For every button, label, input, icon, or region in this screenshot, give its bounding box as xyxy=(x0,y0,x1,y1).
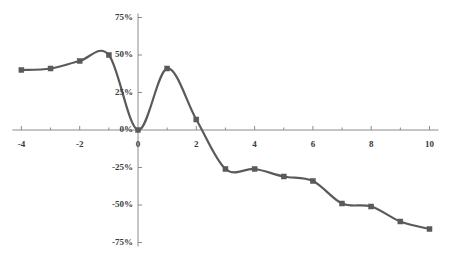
x-axis-tick-label: 0 xyxy=(118,140,158,149)
x-axis-tick-label: -4 xyxy=(1,140,41,149)
data-point-marker xyxy=(369,204,374,209)
data-point-marker xyxy=(19,68,24,73)
data-point-marker xyxy=(310,179,315,184)
y-axis-tick-label: 75% xyxy=(115,13,133,22)
data-point-marker xyxy=(165,66,170,71)
data-point-marker xyxy=(106,53,111,58)
data-point-marker xyxy=(398,219,403,224)
data-point-marker xyxy=(427,227,432,232)
data-point-marker xyxy=(136,128,141,133)
line-chart: 75%50%25%0%-25%-50%-75% -4-20246810 xyxy=(0,0,455,262)
y-axis-tick-label: -75% xyxy=(112,238,133,247)
data-point-marker xyxy=(281,174,286,179)
x-axis-tick-label: 8 xyxy=(351,140,391,149)
x-axis-tick-label: -2 xyxy=(60,140,100,149)
x-axis-tick-label: 4 xyxy=(235,140,275,149)
data-point-marker xyxy=(252,167,257,172)
data-point-marker xyxy=(77,59,82,64)
x-axis-tick-label: 6 xyxy=(293,140,333,149)
y-axis-tick-label: -50% xyxy=(112,200,133,209)
chart-plot-area xyxy=(0,0,455,262)
x-axis-tick-label: 2 xyxy=(176,140,216,149)
axis-layer xyxy=(12,14,438,247)
y-axis-tick-label: 50% xyxy=(115,50,133,59)
x-axis-tick-label: 10 xyxy=(410,140,450,149)
data-point-marker xyxy=(194,117,199,122)
data-point-marker xyxy=(223,167,228,172)
data-point-marker xyxy=(48,66,53,71)
y-axis-tick-label: 25% xyxy=(115,88,133,97)
y-axis-tick-label: -25% xyxy=(112,163,133,172)
y-axis-tick-label: 0% xyxy=(120,125,134,134)
data-point-marker xyxy=(340,201,345,206)
